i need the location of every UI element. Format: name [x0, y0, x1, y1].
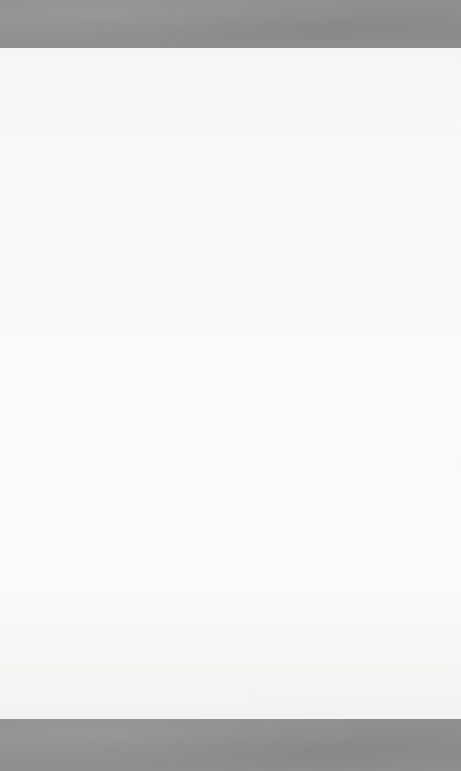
lined-paper: [0, 48, 461, 719]
top-tree-border: [0, 0, 461, 48]
bottom-tree-border: [0, 719, 461, 771]
